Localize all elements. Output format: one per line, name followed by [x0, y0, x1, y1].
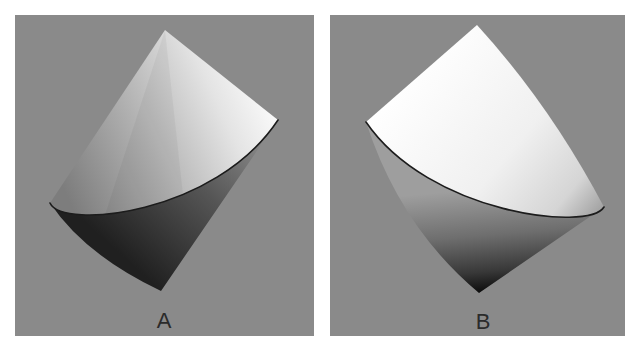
panel-a: A	[15, 15, 314, 336]
figure-canvas: A B	[0, 0, 641, 353]
figure-two-cone-renderings: A B	[0, 0, 641, 353]
panel-b: B	[330, 15, 625, 336]
panel-b-label: B	[476, 309, 491, 334]
panel-a-label: A	[157, 308, 172, 333]
